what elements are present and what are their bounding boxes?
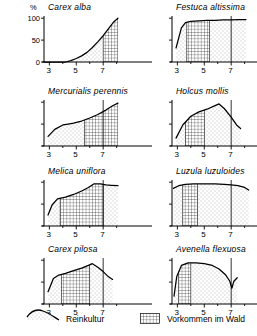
- legend-label-vorkommen-im-wald: Vorkommen im Wald: [167, 314, 245, 324]
- legend-label-reinkultur: Reinkultur: [66, 314, 104, 324]
- legend-swatch-vorkommen-im-wald: [140, 313, 160, 324]
- panel-title: Luzula luzuloides: [176, 166, 245, 176]
- panel-title: Holcus mollis: [176, 86, 229, 96]
- x-tick-label: 7: [228, 150, 232, 159]
- x-tick-label: 3: [46, 150, 50, 159]
- plot-area: [172, 180, 257, 242]
- panel-title: Carex alba: [48, 2, 91, 12]
- x-tick-label: 5: [73, 230, 77, 239]
- x-tick-label: 7: [228, 230, 232, 239]
- y-tick-label: 50: [20, 36, 40, 45]
- panel-title: Melica uniflora: [48, 166, 106, 176]
- x-tick-label: 5: [73, 66, 77, 75]
- legend-swatch-reinkultur: [26, 308, 60, 322]
- y-axis-unit: %: [30, 3, 37, 12]
- panel-title: Festuca altissima: [176, 2, 245, 12]
- panel-title: Mercurialis perennis: [48, 86, 128, 96]
- x-tick-label: 5: [73, 150, 77, 159]
- plot-area: [172, 258, 257, 320]
- panel-title: Carex pilosa: [48, 244, 98, 254]
- x-tick-label: 3: [174, 66, 178, 75]
- x-tick-label: 5: [201, 230, 205, 239]
- x-tick-label: 7: [100, 150, 104, 159]
- plot-area: [172, 100, 257, 162]
- x-tick-label: 3: [174, 230, 178, 239]
- panel-title: Avenella flexuosa: [176, 244, 246, 254]
- y-tick-label: 100: [20, 14, 40, 23]
- x-tick-label: 3: [46, 230, 50, 239]
- y-tick-label: 0: [20, 58, 40, 67]
- x-tick-label: 7: [100, 230, 104, 239]
- x-tick-label: 7: [100, 66, 104, 75]
- x-tick-label: 3: [46, 66, 50, 75]
- plot-area: [172, 16, 257, 78]
- figure-ph-distribution: Carex alba357%100500Festuca altissima357…: [0, 0, 257, 336]
- x-tick-label: 3: [174, 150, 178, 159]
- x-tick-label: 7: [228, 66, 232, 75]
- x-tick-label: 5: [201, 66, 205, 75]
- x-tick-label: 5: [201, 150, 205, 159]
